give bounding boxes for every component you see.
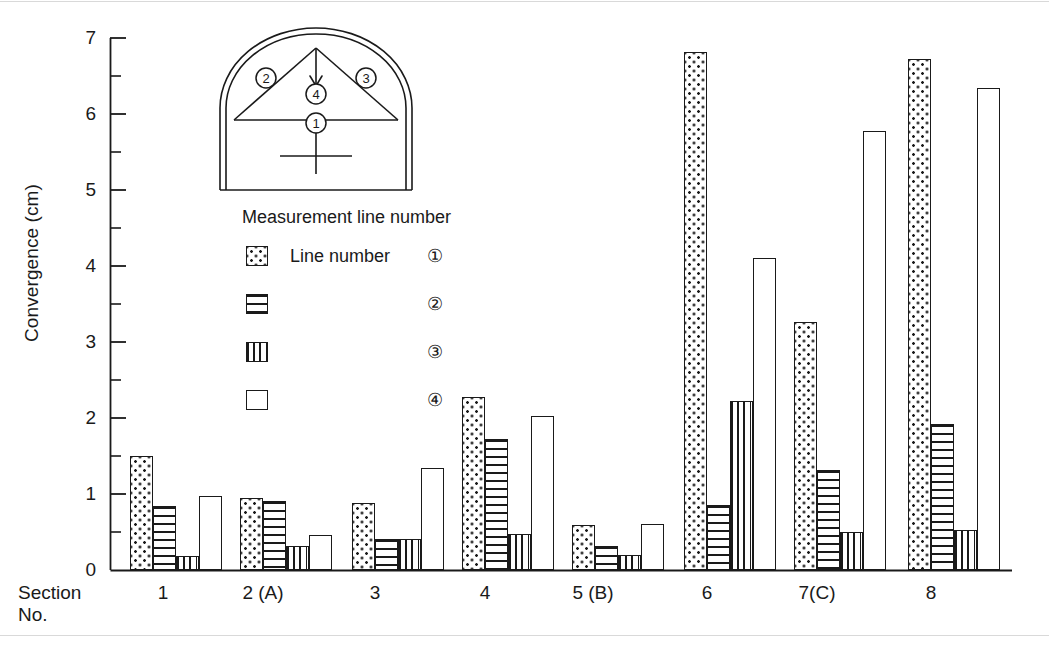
bar xyxy=(840,532,863,570)
bar xyxy=(352,503,375,570)
bar xyxy=(508,534,531,570)
bar xyxy=(753,258,776,570)
x-tick-5: 6 xyxy=(662,582,752,604)
page-rule-bottom xyxy=(0,635,1049,636)
bar-group xyxy=(462,38,554,570)
x-tick-2: 3 xyxy=(330,582,420,604)
bar-group xyxy=(352,38,444,570)
bar xyxy=(421,468,444,570)
bar xyxy=(863,131,886,570)
convergence-bar-chart: Convergence (cm) 7 6 5 4 3 xyxy=(0,0,1049,658)
bar xyxy=(707,505,730,570)
plot-area xyxy=(0,0,1049,658)
bar-group xyxy=(130,38,222,570)
bar-group xyxy=(794,38,886,570)
bar xyxy=(531,416,554,570)
bar xyxy=(618,555,641,570)
page-rule-top xyxy=(0,1,1049,2)
bar-group xyxy=(908,38,1000,570)
bar xyxy=(375,539,398,570)
bar xyxy=(954,530,977,570)
x-tick-1: 2 (A) xyxy=(218,582,308,604)
x-tick-6: 7(C) xyxy=(772,582,862,604)
bar xyxy=(309,535,332,570)
bar xyxy=(485,439,508,570)
bar xyxy=(398,539,421,570)
bar xyxy=(595,546,618,570)
bar xyxy=(572,525,595,570)
bar xyxy=(240,498,263,570)
x-tick-7: 8 xyxy=(886,582,976,604)
bar xyxy=(263,501,286,570)
bar xyxy=(153,506,176,570)
bar xyxy=(730,401,753,570)
bar xyxy=(199,496,222,570)
x-axis-label-line1: Section xyxy=(18,582,81,604)
x-tick-0: 1 xyxy=(118,582,208,604)
bar xyxy=(286,546,309,570)
bar xyxy=(931,424,954,570)
bar xyxy=(176,556,199,570)
bar-group xyxy=(572,38,664,570)
x-axis-label: Section No. xyxy=(18,582,81,626)
bar xyxy=(130,456,153,570)
bar xyxy=(684,52,707,570)
bar-group xyxy=(684,38,776,570)
x-tick-3: 4 xyxy=(440,582,530,604)
bar xyxy=(641,524,664,570)
bar-group xyxy=(240,38,332,570)
x-axis-label-line2: No. xyxy=(18,604,81,626)
bar xyxy=(908,59,931,570)
bar xyxy=(794,322,817,570)
x-tick-4: 5 (B) xyxy=(548,582,638,604)
bar xyxy=(977,88,1000,570)
bar xyxy=(817,470,840,570)
bar xyxy=(462,397,485,570)
